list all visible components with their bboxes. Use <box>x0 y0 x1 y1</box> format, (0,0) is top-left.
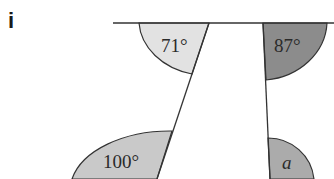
angle-diagram: 71° 87° 100° a <box>0 0 334 179</box>
angle-label-71: 71° <box>161 35 188 56</box>
angle-label-100: 100° <box>103 151 139 172</box>
angle-label-87: 87° <box>274 35 301 56</box>
angle-label-a: a <box>282 152 292 173</box>
